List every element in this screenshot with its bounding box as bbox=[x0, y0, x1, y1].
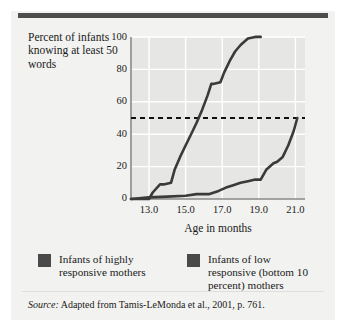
y-tick-20: 20 bbox=[101, 160, 127, 171]
page-margin-bottom bbox=[0, 320, 344, 326]
y-tick-100: 100 bbox=[101, 31, 127, 42]
x-tick-19: 19.0 bbox=[242, 204, 276, 215]
figure-panel: Percent of infants knowing at least 50 w… bbox=[0, 0, 344, 326]
x-tick-21: 21.0 bbox=[278, 204, 312, 215]
x-axis-title: Age in months bbox=[131, 222, 305, 234]
x-tick-17: 17.0 bbox=[205, 204, 239, 215]
x-tick-13: 13.0 bbox=[132, 204, 166, 215]
x-tick-15: 15.0 bbox=[169, 204, 203, 215]
legend-swatch-highly-responsive bbox=[38, 254, 51, 267]
y-tick-0: 0 bbox=[101, 192, 127, 203]
source-note: Source: Adapted from Tamis-LeMonda et al… bbox=[28, 299, 328, 310]
y-tick-40: 40 bbox=[101, 128, 127, 139]
legend-label-low-responsive: Infants of low responsive (bottom 10 per… bbox=[208, 253, 316, 291]
source-text: Adapted from Tamis-LeMonda et al., 2001,… bbox=[59, 299, 265, 310]
source-divider bbox=[22, 291, 324, 292]
legend-swatch-low-responsive bbox=[187, 254, 200, 267]
source-prefix: Source: bbox=[28, 299, 59, 310]
y-tick-60: 60 bbox=[101, 95, 127, 106]
page-margin-top bbox=[0, 0, 344, 11]
page-margin-right bbox=[335, 0, 344, 326]
legend-label-highly-responsive: Infants of highly responsive mothers bbox=[59, 253, 154, 279]
page-margin-left bbox=[0, 0, 11, 326]
y-tick-80: 80 bbox=[101, 63, 127, 74]
